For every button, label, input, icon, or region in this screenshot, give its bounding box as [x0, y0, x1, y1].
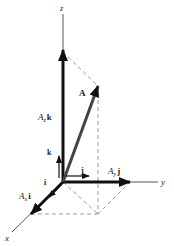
unit-k-label: k [47, 148, 52, 157]
unit-i-label: i [44, 178, 47, 187]
z-axis-label: z [59, 4, 64, 13]
vector-components-diagram: z y x A k j i Azk Ayj Axi [0, 0, 174, 246]
x-axis-label: x [4, 233, 9, 243]
unit-j-label: j [80, 166, 84, 175]
unit-i-arrow [49, 185, 61, 197]
ax-i-label: Axi [18, 191, 31, 202]
az-k-label: Azk [37, 112, 52, 123]
vector-a-label: A [79, 88, 86, 98]
ax-i-component-arrow [31, 182, 63, 214]
ay-j-label: Ayj [107, 166, 120, 177]
y-axis-label: y [160, 177, 165, 187]
